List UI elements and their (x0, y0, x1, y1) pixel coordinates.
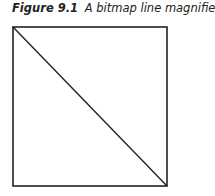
bitmap-line-figure (12, 26, 168, 187)
figure-title: A bitmap line magnified (85, 1, 215, 15)
square-with-diagonal-diagram (12, 26, 168, 187)
figure-caption: Figure 9.1 A bitmap line magnified (12, 1, 215, 15)
figure-label: Figure 9.1 (12, 1, 78, 15)
